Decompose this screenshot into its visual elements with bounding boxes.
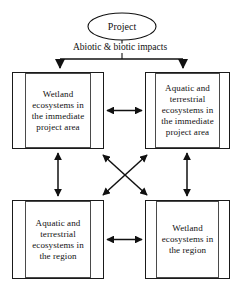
node-aquatic-terrestrial-immediate-inner: Aquatic and terrestrial ecosystems in th… [155,73,220,148]
node-aquatic-terrestrial-region: Aquatic and terrestrial ecosystems in th… [12,200,104,279]
node-wetland-region-inner: Wetland ecosystems in the region [156,201,219,278]
node-wetland-immediate: Wetland ecosystems in the immediate proj… [12,72,104,149]
node-wetland-immediate-inner: Wetland ecosystems in the immediate proj… [25,73,91,148]
node-wetland-immediate-label: Wetland ecosystems in the immediate proj… [27,89,89,133]
node-wetland-region-label: Wetland ecosystems in the region [158,223,217,256]
node-aquatic-terrestrial-immediate: Aquatic and terrestrial ecosystems in th… [145,72,230,149]
node-aquatic-terrestrial-region-inner: Aquatic and terrestrial ecosystems in th… [25,201,91,278]
node-aquatic-terrestrial-region-label: Aquatic and terrestrial ecosystems in th… [27,218,89,262]
ecosystem-impact-diagram: Project Abiotic & biotic impacts Wetland… [0,0,240,293]
impacts-label: Abiotic & biotic impacts [0,42,240,52]
project-ellipse [88,13,156,40]
node-aquatic-terrestrial-immediate-label: Aquatic and terrestrial ecosystems in th… [157,83,218,138]
node-wetland-region: Wetland ecosystems in the region [145,200,230,279]
